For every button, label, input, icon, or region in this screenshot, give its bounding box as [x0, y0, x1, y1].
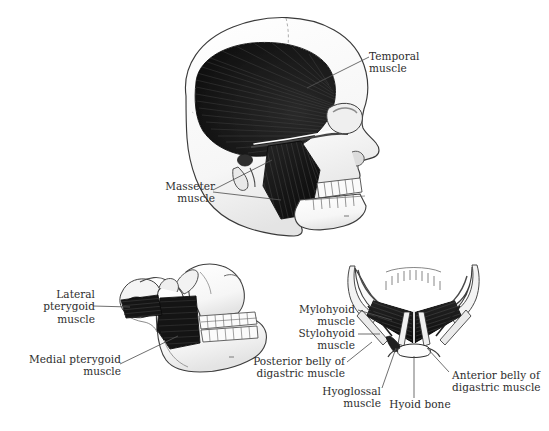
anatomy-figure: Temporal muscle Masseter muscle Lateral …	[0, 0, 549, 431]
anterior-belly-leader-line	[427, 348, 449, 372]
label-posterior-belly-digastric: Posterior belly of digastric muscle	[253, 355, 345, 380]
label-anterior-belly-digastric: Anterior belly of digastric muscle	[452, 369, 546, 394]
hyoglossal-leader-line	[382, 348, 396, 388]
label-lateral-pterygoid-muscle: Lateral pterygoid muscle	[13, 288, 95, 325]
acoustic-meatus	[238, 154, 253, 166]
label-hyoid-bone: Hyoid bone	[389, 398, 451, 410]
label-masseter-muscle: Masseter muscle	[135, 180, 215, 205]
mandible-body	[295, 194, 366, 230]
label-mylohyoid-muscle: Mylohyoid muscle	[283, 303, 355, 328]
inferior-teeth-marks	[386, 268, 441, 291]
label-hyoglossal-muscle: Hyoglossal muscle	[305, 385, 381, 410]
label-temporal-muscle: Temporal muscle	[369, 50, 461, 75]
label-stylohyoid-muscle: Stylohyoid muscle	[283, 327, 355, 352]
hyoid-bone	[398, 344, 431, 358]
label-medial-pterygoid-muscle: Medial pterygoid muscle	[26, 353, 121, 378]
